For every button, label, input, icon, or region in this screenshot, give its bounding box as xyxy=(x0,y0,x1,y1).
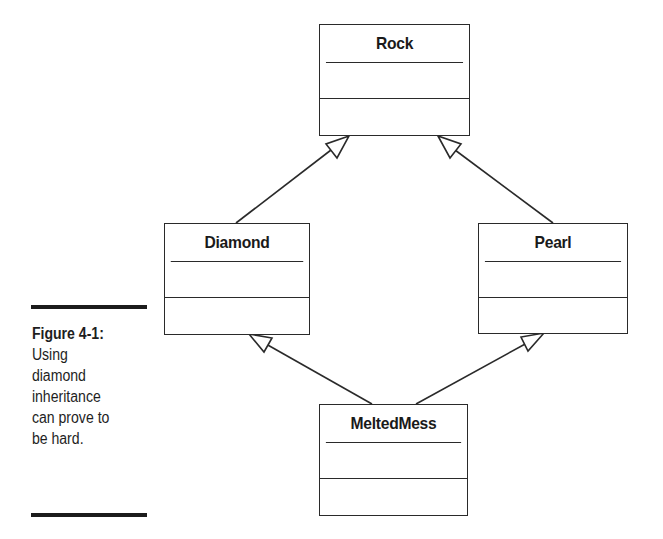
class-pearl: Pearl xyxy=(478,223,628,334)
inheritance-arrowhead-icon xyxy=(326,136,349,158)
class-attributes xyxy=(479,262,627,298)
class-name: Diamond xyxy=(171,224,303,262)
caption-bottom-rule xyxy=(31,513,147,517)
caption-line: Using xyxy=(32,344,146,365)
class-attributes xyxy=(165,262,309,298)
inheritance-arrowhead-icon xyxy=(249,334,272,352)
caption-line: can prove to xyxy=(32,407,146,428)
arrow-meltedmess-to-diamond xyxy=(266,344,372,404)
arrow-diamond-to-rock xyxy=(236,150,331,223)
class-name: MeltedMess xyxy=(326,405,461,443)
class-diamond: Diamond xyxy=(164,223,310,335)
inheritance-arrowhead-icon xyxy=(438,136,461,158)
caption-line: diamond xyxy=(32,365,146,386)
class-rock: Rock xyxy=(319,24,470,136)
class-operations xyxy=(320,479,467,513)
class-name: Rock xyxy=(326,25,463,63)
inheritance-arrowhead-icon xyxy=(521,333,544,351)
arrow-pearl-to-rock xyxy=(455,150,553,223)
figure-caption: Figure 4-1: Using diamond inheritance ca… xyxy=(31,305,147,449)
arrow-meltedmess-to-pearl xyxy=(416,343,527,404)
figure-label: Figure 4-1: xyxy=(32,323,146,344)
class-operations xyxy=(320,99,469,133)
uml-diagram: Rock Diamond Pearl MeltedMess xyxy=(0,0,663,539)
class-attributes xyxy=(320,443,467,479)
class-operations xyxy=(165,298,309,332)
caption-line: inheritance xyxy=(32,386,146,407)
class-attributes xyxy=(320,63,469,99)
caption-line: be hard. xyxy=(32,428,146,449)
class-operations xyxy=(479,298,627,332)
class-name: Pearl xyxy=(485,224,621,262)
class-meltedmess: MeltedMess xyxy=(319,404,468,516)
caption-top-rule xyxy=(31,305,147,309)
caption-text: Figure 4-1: Using diamond inheritance ca… xyxy=(31,323,146,449)
